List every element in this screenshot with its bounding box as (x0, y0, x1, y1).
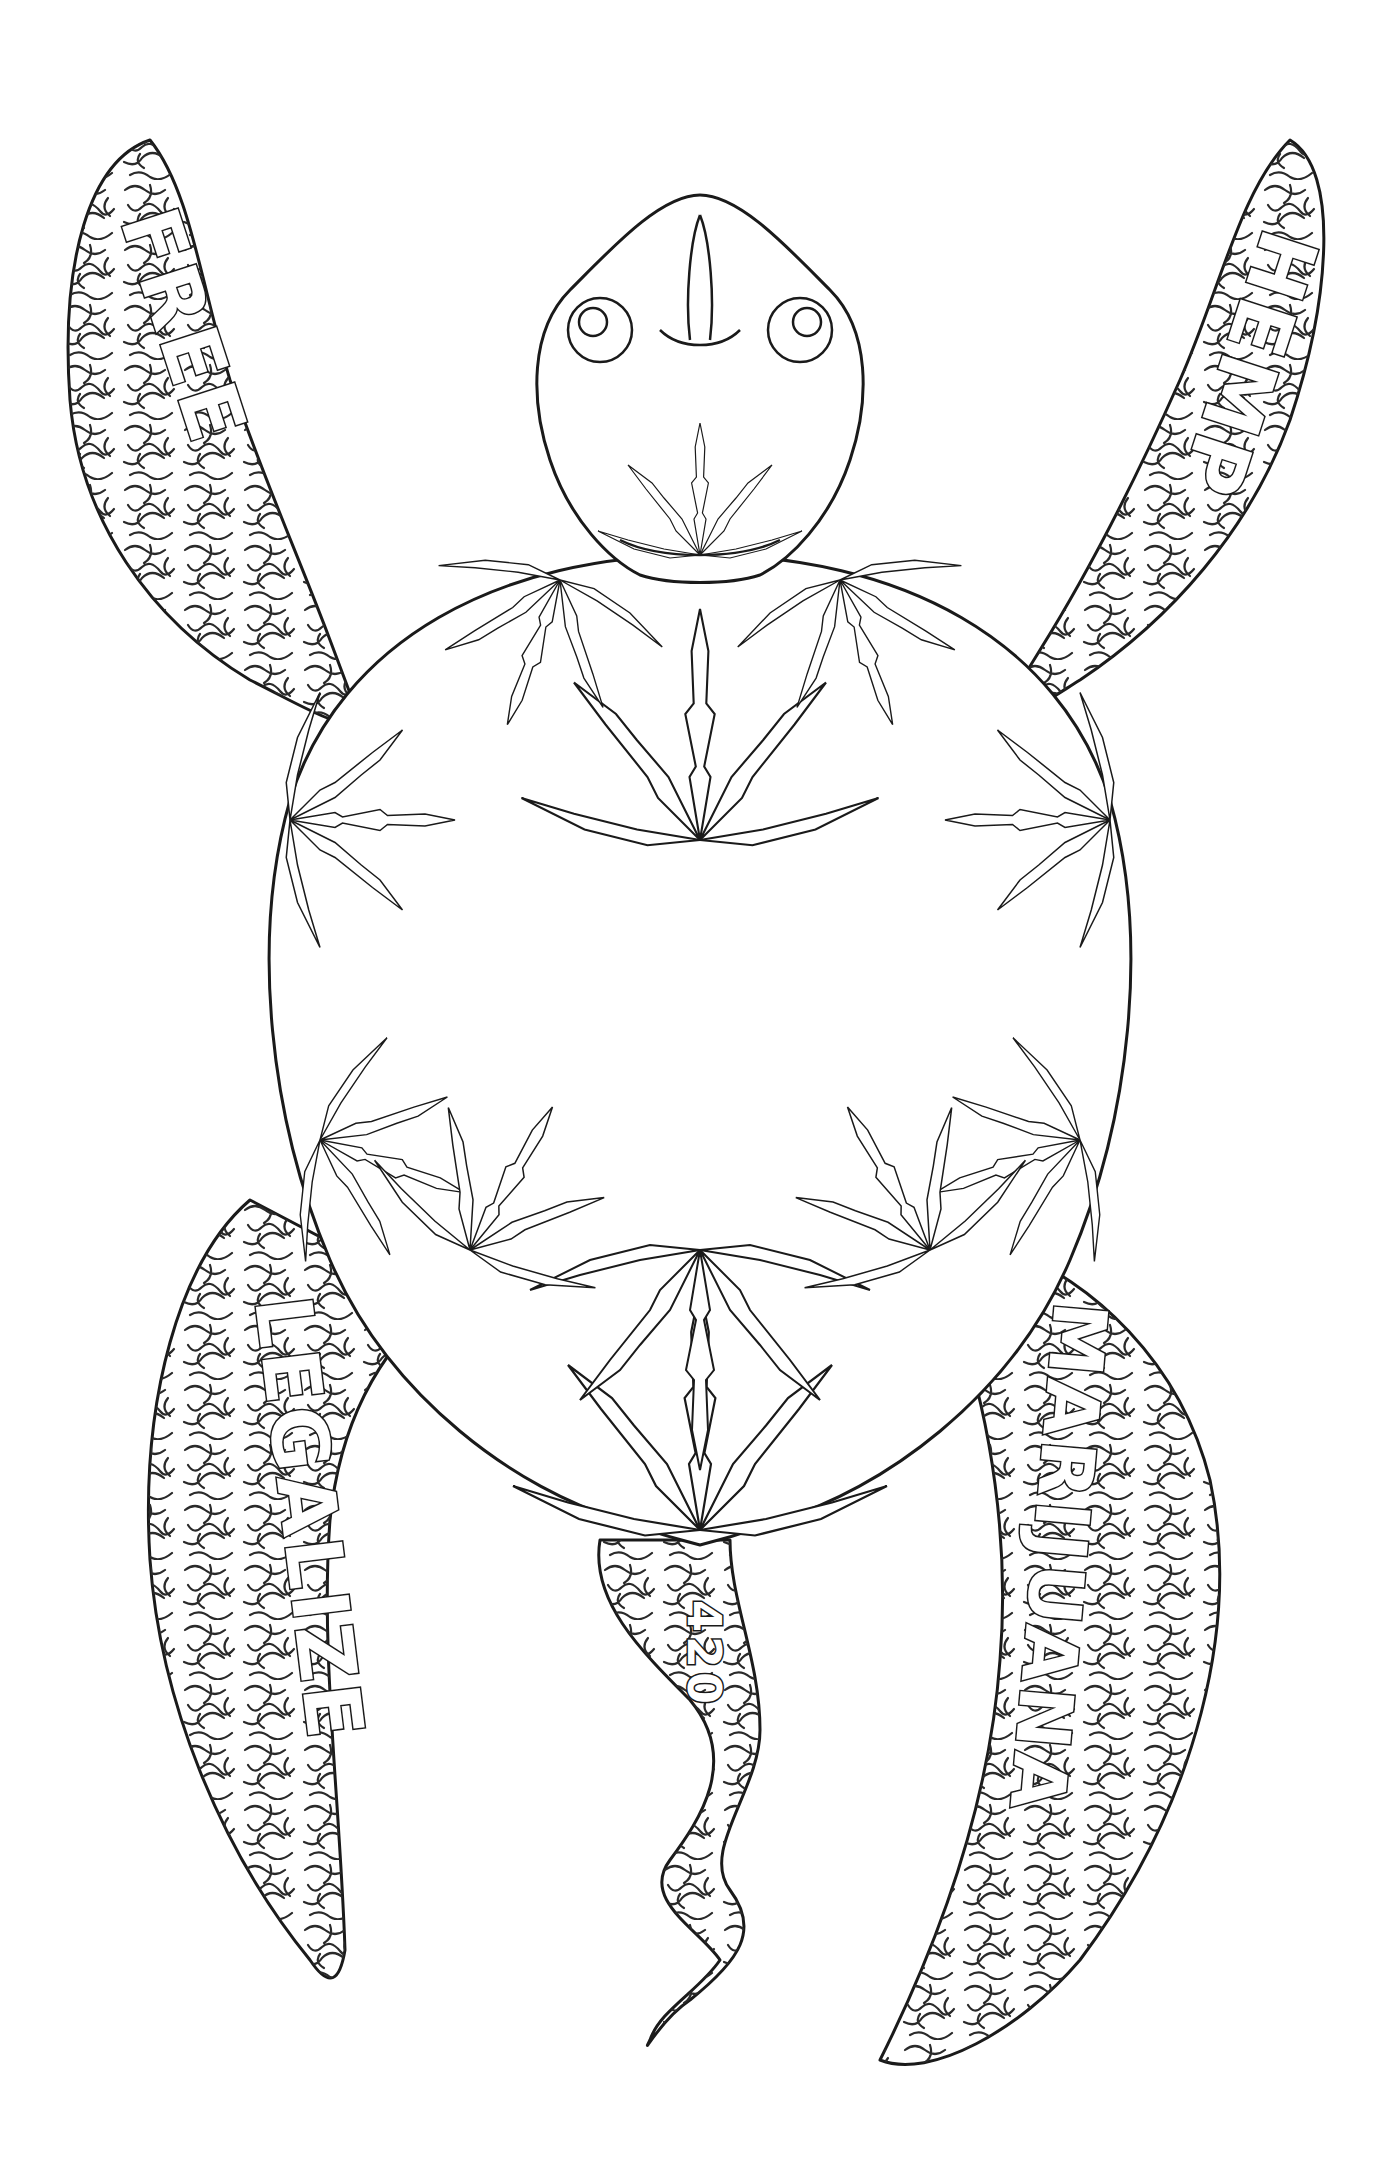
tail: 420 (599, 1540, 760, 2045)
flipper-top-left: FREE (68, 140, 360, 723)
turtle-illustration: FREE HEMP LEGALIZE MARIJUANA 420 (0, 0, 1399, 2163)
flipper-top-right: HEMP (1000, 140, 1335, 716)
tail-text-420: 420 (677, 1600, 731, 1708)
head (537, 195, 863, 583)
